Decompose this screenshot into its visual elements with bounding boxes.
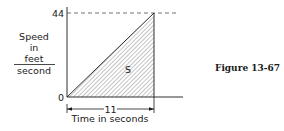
y-label-in: in [30, 42, 39, 53]
y-tick-44: 44 [52, 8, 64, 19]
arrowhead-right-icon [149, 107, 154, 111]
figure-caption: Figure 13-67 [215, 63, 280, 73]
speed-time-diagram: 11 44 0 Speed in feet second S Time in s… [0, 0, 284, 131]
arrowhead-left-icon [67, 107, 72, 111]
region-label-s: S [125, 64, 131, 75]
x-axis-label: Time in seconds [71, 113, 149, 124]
y-label-feet: feet [25, 53, 44, 64]
y-label-speed: Speed [19, 31, 49, 42]
y-label-second: second [17, 65, 51, 76]
y-tick-0: 0 [58, 92, 64, 103]
